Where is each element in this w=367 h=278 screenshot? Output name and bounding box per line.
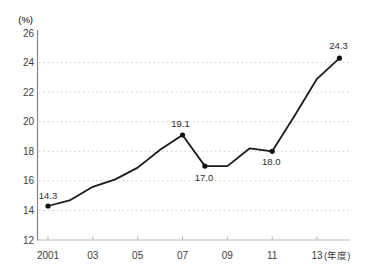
y-tick-label: 22 [23,87,35,98]
axes [38,30,351,241]
line-chart: 1214161820222426 2001030507091113(年度) 14… [0,0,367,278]
x-tick-label: 07 [177,250,189,261]
x-tick-label: 13 [311,250,323,261]
data-point-label: 14.3 [39,190,58,201]
data-point-marker [337,56,342,61]
data-labels: 14.319.117.018.024.3 [39,40,348,201]
data-point-label: 24.3 [329,40,348,51]
data-point-marker [270,149,275,154]
data-line [48,58,340,206]
x-axis-ticks [48,237,317,241]
x-tick-label: 2001 [37,250,60,261]
x-axis-labels: 2001030507091113(年度) [37,250,350,261]
x-tick-label: 05 [132,250,144,261]
y-tick-label: 16 [23,175,35,186]
x-tick-label: 03 [87,250,99,261]
y-tick-label: 12 [23,235,35,246]
y-tick-label: 14 [23,205,35,216]
y-axis-labels: 1214161820222426 [23,28,35,246]
x-tick-label: 09 [222,250,234,261]
y-tick-label: 18 [23,146,35,157]
data-point-marker [202,163,207,168]
data-point-label: 18.0 [262,156,281,167]
gridlines [39,63,352,211]
line-chart-canvas: 1214161820222426 2001030507091113(年度) 14… [0,0,367,278]
data-point-marker [180,132,185,137]
data-series [48,58,340,206]
x-axis-suffix-label: (年度) [324,250,350,261]
y-tick-label: 26 [23,28,35,39]
data-markers [45,56,342,209]
y-tick-label: 24 [23,57,35,68]
data-point-label: 19.1 [171,118,190,129]
y-tick-label: 20 [23,116,35,127]
data-point-marker [45,203,50,208]
data-point-label: 17.0 [195,172,214,183]
y-axis-unit-label: (%) [18,14,33,25]
x-tick-label: 11 [267,250,278,261]
